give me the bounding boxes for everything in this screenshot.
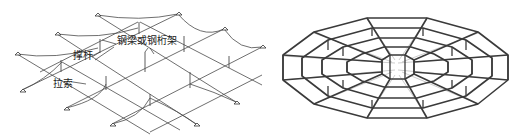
strut-label: 撑杆 [73, 51, 93, 61]
grid-beams [17, 14, 262, 134]
beam-label: 钢梁或钢桁架 [117, 36, 177, 46]
cable-strut-grid-drawing [0, 0, 280, 137]
radial-ring-structure-drawing [275, 0, 522, 137]
anchor-points [15, 12, 266, 126]
leader-lines [73, 40, 154, 84]
radial-beams [283, 18, 508, 118]
cable-strut-grid-figure: 钢梁或钢桁架 撑杆 拉索 [0, 0, 280, 137]
cables [17, 14, 262, 124]
vertical-struts [283, 28, 508, 108]
cable-label: 拉索 [53, 79, 73, 89]
radial-ring-structure-figure [275, 0, 522, 137]
